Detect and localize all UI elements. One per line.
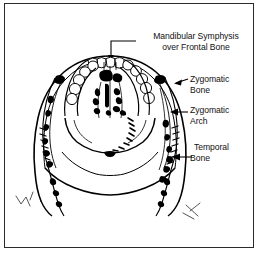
palate-arch	[65, 118, 155, 153]
tooth-l4	[69, 83, 80, 94]
label-zygomatic-arch-line2: Arch	[190, 116, 207, 126]
vomer	[105, 84, 109, 108]
tooth-incisor-2	[106, 57, 115, 67]
turbinate-right-c	[113, 106, 120, 112]
turbinate-right-a	[114, 88, 120, 95]
right-arch-mid	[159, 88, 165, 170]
mandible-arc	[45, 168, 175, 195]
left-zygoma-mass	[54, 75, 65, 84]
label-zygomatic-bone-line2: Bone	[190, 85, 210, 95]
label-temporal-bone-line1: Temporal	[194, 142, 229, 152]
label-zygomatic-bone-line1: Zygomatic	[190, 74, 229, 84]
label-mandibular-symphysis-line1: Mandibular Symphysis	[153, 31, 238, 41]
right-zygoma-mass	[154, 75, 166, 84]
arrowhead-zygomatic-bone	[174, 80, 182, 86]
mandible-outline	[45, 152, 175, 195]
label-zygomatic-arch-line1: Zygomatic	[190, 105, 229, 115]
turbinate-right-b	[116, 97, 122, 104]
left-arch-inner	[50, 80, 62, 168]
palate-hatching	[113, 118, 135, 151]
label-mandibular-symphysis: Mandibular Symphysis over Frontal Bone	[137, 31, 255, 52]
label-temporal-bone-line2: Bone	[190, 153, 229, 164]
label-zygomatic-bone: Zygomatic Bone	[190, 74, 229, 95]
nasal-aperture-right	[113, 73, 123, 82]
hard-palate	[65, 118, 155, 153]
maxillary-dental-arch	[67, 57, 155, 105]
mandibular-rami	[41, 170, 179, 216]
ramus-right-outer	[168, 201, 179, 216]
ramus-left-outer	[41, 201, 52, 216]
label-temporal-bone: Temporal Bone	[194, 142, 229, 163]
label-zygomatic-arch: Zygomatic Arch	[190, 105, 229, 126]
label-mandibular-symphysis-line2: over Frontal Bone	[162, 42, 229, 52]
maxillary-detail-right	[120, 110, 126, 116]
nasal-aperture-left	[99, 70, 113, 82]
palate-inner-left	[74, 120, 92, 143]
tooth-l5	[67, 93, 78, 104]
turbinate-left-c	[94, 108, 100, 114]
rami-shading	[50, 178, 170, 207]
chin-notch	[104, 151, 116, 157]
